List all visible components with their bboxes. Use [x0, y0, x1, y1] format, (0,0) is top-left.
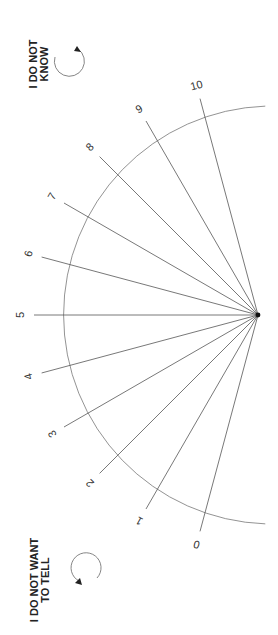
- scale-label-0: 0: [192, 538, 201, 551]
- scale-label-6: 6: [22, 249, 35, 258]
- scale-ray-7[interactable]: [64, 203, 258, 315]
- arrowhead-icon: [74, 46, 81, 52]
- dont-want-label[interactable]: I DO NOT WANT TO TELL: [29, 535, 51, 625]
- scale-ray-4[interactable]: [42, 315, 258, 373]
- scale-ray-1[interactable]: [146, 315, 258, 509]
- dial-center-point: [256, 313, 261, 318]
- circular-arrow-icon: [71, 553, 101, 581]
- scale-label-4: 4: [22, 372, 35, 381]
- scale-label-3: 3: [45, 428, 58, 439]
- scale-ray-10[interactable]: [200, 99, 258, 315]
- scale-rays: [34, 99, 258, 532]
- scale-ray-2[interactable]: [100, 315, 258, 473]
- scale-label-1: 1: [133, 514, 144, 527]
- circular-arrow-icon: [54, 49, 84, 76]
- dont-know-label[interactable]: I DO NOT KNOW: [28, 29, 50, 99]
- scale-label-10: 10: [189, 78, 204, 93]
- scale-ray-9[interactable]: [146, 121, 258, 315]
- scale-label-8: 8: [83, 140, 96, 153]
- dont-want-line2: TO TELL: [40, 535, 51, 625]
- dont-know-option[interactable]: [54, 46, 84, 76]
- scale-label-2: 2: [83, 477, 96, 490]
- dont-know-line2: KNOW: [39, 29, 50, 99]
- scale-label-9: 9: [133, 102, 144, 115]
- dont-want-option[interactable]: [71, 553, 101, 585]
- scale-ray-8[interactable]: [100, 157, 258, 315]
- scale-label-7: 7: [45, 190, 58, 201]
- scale-label-5: 5: [14, 312, 26, 318]
- scale-ray-6[interactable]: [42, 257, 258, 315]
- scale-ray-3[interactable]: [64, 315, 258, 427]
- scale-ray-0[interactable]: [200, 315, 258, 531]
